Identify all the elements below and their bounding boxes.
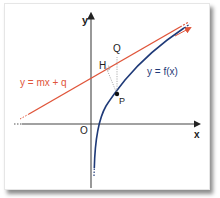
origin-label: O	[80, 125, 88, 136]
point-q-label: Q	[113, 43, 121, 54]
curve-equation-label: y = f(x)	[147, 66, 178, 77]
line-equation-label: y = mx + q	[20, 77, 67, 88]
point-h-label: H	[99, 60, 106, 71]
x-axis-label: x	[194, 129, 200, 140]
asymptote-diagram: y x O y = mx + q y = f(x) Q H P	[0, 0, 220, 198]
point-p-label: P	[119, 96, 125, 106]
y-axis-label: y	[82, 14, 89, 26]
function-curve	[94, 24, 190, 176]
construction-lines	[106, 57, 117, 94]
